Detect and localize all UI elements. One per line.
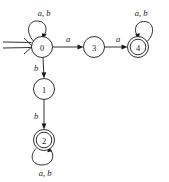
state-label-3: 3 — [92, 43, 96, 53]
transition-0-to-3 — [53, 45, 84, 50]
state-label-1: 1 — [42, 85, 46, 95]
label-transition-3-to-4: a — [116, 34, 120, 44]
label-self-loop-4: a, b — [135, 8, 148, 18]
state-label-2: 2 — [42, 136, 46, 146]
label-self-loop-2: a, b — [39, 168, 52, 178]
finite-automaton-diagram: 0 3 4 1 2 a, b a a a, b b b a, b — [0, 0, 169, 182]
arrowhead-3-to-4 — [122, 45, 128, 50]
start-arrow — [3, 38, 33, 54]
arrowhead-0-to-1 — [42, 72, 47, 78]
state-label-0: 0 — [40, 43, 44, 53]
transition-3-to-4 — [105, 45, 128, 50]
state-node-2[interactable]: 2 — [34, 130, 55, 151]
label-transition-0-to-1: b — [34, 63, 38, 73]
label-self-loop-0: a, b — [38, 8, 51, 18]
arrowhead-0-to-3 — [78, 45, 84, 50]
automaton-canvas: 0 3 4 1 2 a, b a a a, b b b a, b — [0, 0, 169, 182]
state-node-0[interactable]: 0 — [32, 37, 53, 58]
state-node-3[interactable]: 3 — [84, 37, 105, 58]
label-transition-0-to-3: a — [66, 34, 70, 44]
state-node-1[interactable]: 1 — [34, 79, 55, 100]
state-node-4[interactable]: 4 — [128, 37, 149, 58]
transition-0-to-1 — [42, 58, 47, 79]
label-transition-1-to-2: b — [34, 111, 38, 121]
transition-1-to-2 — [42, 100, 47, 130]
arrowhead-1-to-2 — [42, 123, 47, 129]
